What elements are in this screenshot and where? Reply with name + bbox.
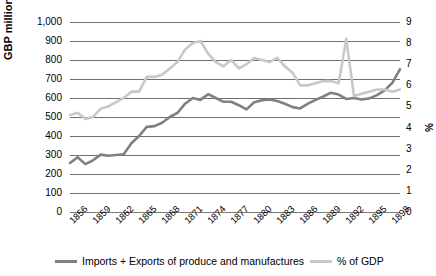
y-axis-right-tick-label: 8 <box>406 38 426 48</box>
chart-legend: Imports + Exports of produce and manufac… <box>0 252 436 274</box>
legend-item-pct-gdp: % of GDP <box>310 255 384 267</box>
y-axis-left-tick-label: 700 <box>14 74 62 84</box>
legend-swatch-pct-gdp <box>310 260 332 263</box>
y-axis-right-tick-label: 5 <box>406 101 426 111</box>
plot-area <box>70 22 400 212</box>
y-axis-left-tick-label: 500 <box>14 112 62 122</box>
y-axis-left-tick-label: 800 <box>14 55 62 65</box>
y-axis-left-title: GBP million <box>2 0 14 60</box>
y-axis-right-tick-label: 3 <box>406 144 426 154</box>
y-axis-left-tick-label: 900 <box>14 36 62 46</box>
y-axis-left-tick-label: 100 <box>14 188 62 198</box>
y-axis-right-tick-label: 9 <box>406 17 426 27</box>
y-axis-right-tick-label: 4 <box>406 123 426 133</box>
y-axis-right-tick-label: 7 <box>406 59 426 69</box>
y-axis-left-tick-label: 300 <box>14 150 62 160</box>
y-axis-right-tick-label: 6 <box>406 80 426 90</box>
y-axis-left-tick-label: 1,000 <box>14 17 62 27</box>
series-line-pct-gdp <box>70 39 400 119</box>
legend-label-pct-gdp: % of GDP <box>337 255 384 267</box>
y-axis-right-tick-label: 1 <box>406 186 426 196</box>
series-lines <box>70 22 400 212</box>
y-axis-left-tick-label: 400 <box>14 131 62 141</box>
legend-label-imports-exports: Imports + Exports of produce and manufac… <box>82 255 304 267</box>
y-axis-left-tick-label: 600 <box>14 93 62 103</box>
y-axis-right-tick-label: 2 <box>406 165 426 175</box>
y-axis-left-tick-label: 200 <box>14 169 62 179</box>
chart-container: GBP million % 1,000900800700600500400300… <box>0 0 436 276</box>
y-axis-left-tick-label: 0 <box>14 207 62 217</box>
legend-swatch-imports-exports <box>55 260 77 263</box>
legend-item-imports-exports: Imports + Exports of produce and manufac… <box>55 255 304 267</box>
series-line-imports-exports <box>70 69 400 164</box>
